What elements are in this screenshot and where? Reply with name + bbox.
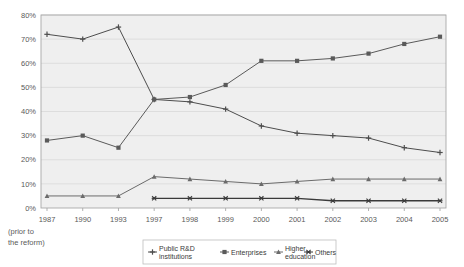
x-tick-label: 1997 xyxy=(146,215,163,224)
legend-item-label: Enterprises xyxy=(231,249,267,257)
x-tick-label: 2002 xyxy=(324,215,341,224)
x-tick-label: 1993 xyxy=(110,215,127,224)
y-tick-label: 60% xyxy=(21,59,36,68)
legend-item-label: education xyxy=(285,253,315,260)
x-tick-label: 1999 xyxy=(217,215,234,224)
y-tick-label: 20% xyxy=(21,155,36,164)
x-tick-label: 2003 xyxy=(360,215,377,224)
legend-item-label: Others xyxy=(315,249,337,256)
y-tick-label: 0% xyxy=(25,204,36,213)
x-axis-note-line: (prior to xyxy=(8,227,34,236)
x-tick-label: 1990 xyxy=(74,215,91,224)
legend-item-label: Public R&D xyxy=(159,245,195,252)
legend-item-label: institutions xyxy=(159,253,193,260)
x-tick-label: 2005 xyxy=(432,215,449,224)
x-tick-label: 2001 xyxy=(289,215,306,224)
y-tick-label: 30% xyxy=(21,131,36,140)
y-tick-label: 70% xyxy=(21,35,36,44)
x-tick-label: 2004 xyxy=(396,215,413,224)
x-axis-note-line: the reform) xyxy=(8,238,45,247)
x-tick-label: 1987 xyxy=(39,215,56,224)
y-tick-label: 40% xyxy=(21,107,36,116)
x-tick-label: 1998 xyxy=(182,215,199,224)
legend-item-label: Higher xyxy=(285,245,306,253)
chart-canvas: 0%10%20%30%40%50%60%70%80% 1987199019931… xyxy=(0,0,464,267)
line-chart: 0%10%20%30%40%50%60%70%80% 1987199019931… xyxy=(0,0,464,267)
y-tick-label: 50% xyxy=(21,83,36,92)
chart-legend: Public R&DinstitutionsEnterprisesHighere… xyxy=(143,240,337,264)
y-axis-tick-labels: 0%10%20%30%40%50%60%70%80% xyxy=(21,11,36,213)
y-tick-label: 10% xyxy=(21,180,36,189)
x-tick-label: 2000 xyxy=(253,215,270,224)
y-tick-label: 80% xyxy=(21,11,36,20)
